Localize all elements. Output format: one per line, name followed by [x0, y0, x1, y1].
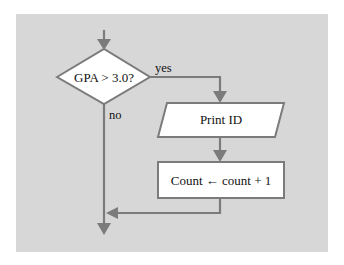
no-label: no [109, 108, 122, 122]
yes-label: yes [155, 61, 172, 75]
assign-label: Count ← count + 1 [171, 173, 272, 188]
decision-label: GPA > 3.0? [74, 70, 134, 85]
flowchart-figure: GPA > 3.0? yes no Print ID Count ← count… [0, 0, 344, 265]
print-label: Print ID [200, 112, 242, 127]
